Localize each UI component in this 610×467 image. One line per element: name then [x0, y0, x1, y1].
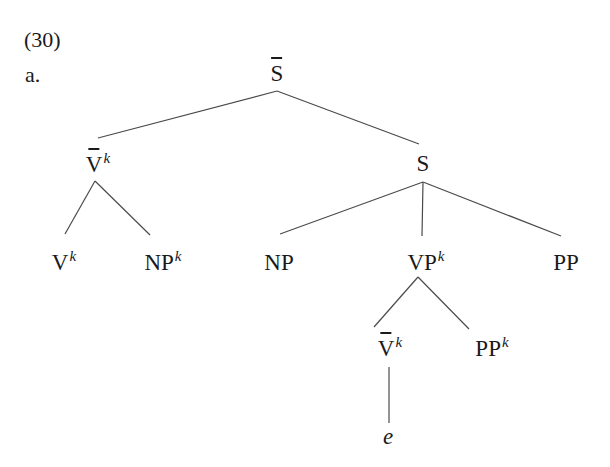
overbar — [381, 332, 392, 334]
node-empty-e: e — [383, 425, 393, 448]
superscript-index: k — [395, 334, 402, 350]
tree-edges — [0, 0, 610, 467]
edge-sbar-s — [277, 91, 419, 144]
superscript-index: k — [438, 248, 445, 264]
edge-vbar-npk — [95, 181, 150, 235]
superscript-index: k — [502, 334, 509, 350]
node-vbar-low: Vk — [378, 337, 402, 360]
node-label: S — [417, 151, 430, 176]
node-label: PP — [553, 250, 579, 275]
node-vp-k: VPk — [407, 251, 444, 274]
overbar — [271, 57, 282, 59]
node-np-k: NPk — [144, 251, 181, 274]
node-s: S — [417, 152, 430, 175]
edge-vpk-ppk — [418, 277, 469, 329]
node-np: NP — [264, 251, 293, 274]
edge-vpk-vbar — [374, 277, 418, 327]
edge-vbar-v — [65, 181, 95, 234]
node-pp: PP — [553, 251, 579, 274]
node-sbar: S — [271, 62, 284, 85]
superscript-index: k — [175, 248, 182, 264]
superscript-index: k — [103, 150, 110, 166]
edge-sbar-vbar — [98, 91, 277, 138]
edge-s-pp — [423, 182, 561, 236]
edge-s-np — [280, 182, 423, 234]
node-label: e — [383, 424, 393, 449]
node-label: V — [86, 152, 103, 177]
node-pp-k: PPk — [475, 337, 508, 360]
node-label: VP — [407, 250, 436, 275]
node-label: V — [378, 336, 395, 361]
node-label: NP — [144, 250, 173, 275]
node-label: PP — [475, 336, 501, 361]
node-v: Vk — [52, 251, 76, 274]
node-vbar-top: Vk — [86, 153, 110, 176]
overbar — [89, 148, 100, 150]
node-label: NP — [264, 250, 293, 275]
node-label: S — [271, 61, 284, 86]
node-label: V — [52, 250, 69, 275]
superscript-index: k — [69, 248, 76, 264]
edge-s-vpk — [422, 182, 423, 236]
